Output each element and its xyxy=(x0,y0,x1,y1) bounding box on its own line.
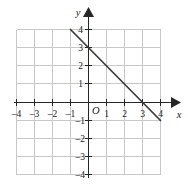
y-tick-label-1: 1 xyxy=(78,79,83,89)
y-tick-label-neg2: –2 xyxy=(75,134,86,144)
x-tick-label-1: 1 xyxy=(104,109,109,119)
y-tick-label-2: 2 xyxy=(78,61,83,71)
x-tick-label-neg2: –2 xyxy=(47,109,58,119)
x-axis-label: x xyxy=(176,109,182,120)
y-tick-label-3: 3 xyxy=(78,43,83,53)
coordinate-plane-graph: –4 –3 –2 –1 1 2 3 4 4 3 2 1 –1 –2 –3 –4 … xyxy=(0,0,188,185)
graph-svg: –4 –3 –2 –1 1 2 3 4 4 3 2 1 –1 –2 –3 –4 … xyxy=(0,0,188,185)
y-axis-label: y xyxy=(75,7,81,18)
origin-label: O xyxy=(92,105,100,116)
graph-background xyxy=(0,0,188,185)
x-tick-label-neg3: –3 xyxy=(29,109,40,119)
x-tick-label-3: 3 xyxy=(140,109,145,119)
x-tick-label-neg4: –4 xyxy=(11,109,22,119)
x-tick-label-neg1: –1 xyxy=(65,109,76,119)
y-tick-label-4: 4 xyxy=(78,25,83,35)
y-tick-label-neg3: –3 xyxy=(75,152,86,162)
x-tick-label-4: 4 xyxy=(158,109,163,119)
y-tick-label-neg1: –1 xyxy=(75,116,86,126)
y-tick-label-neg4: –4 xyxy=(75,170,86,180)
x-tick-label-2: 2 xyxy=(122,109,127,119)
